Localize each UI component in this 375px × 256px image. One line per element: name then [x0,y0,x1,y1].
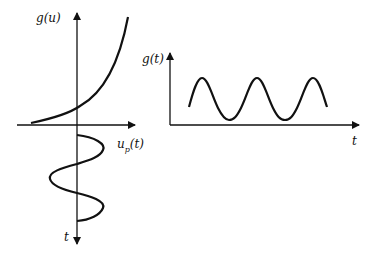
g-u-label: g(u) [36,11,61,25]
g-t-label: g(t) [142,52,164,66]
diagram-canvas: g(u) up(t) t g(t) t [0,0,375,256]
exponential-curve [31,17,128,123]
output-waveform [189,78,327,120]
left-panel: g(u) up(t) t [17,11,144,244]
t-label-left: t [64,230,69,244]
t-label-right: t [352,134,357,148]
up-t-label: up(t) [117,137,144,154]
right-panel: g(t) t [142,52,359,148]
